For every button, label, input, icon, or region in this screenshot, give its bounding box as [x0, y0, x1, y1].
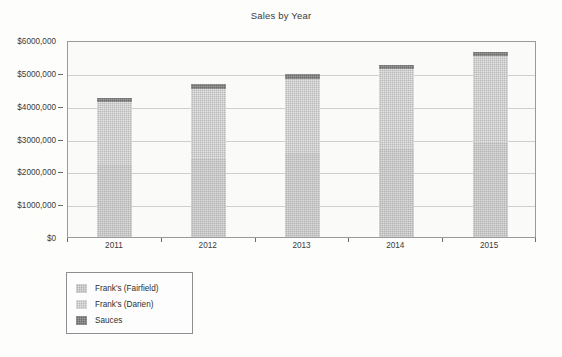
legend-item[interactable]: Sauces	[76, 312, 192, 328]
legend-item[interactable]: Frank's (Darien)	[76, 296, 192, 312]
y-axis-tick-label: $0	[47, 234, 56, 243]
y-axis-tick-label: $3000,000	[17, 135, 56, 144]
bar-segment[interactable]	[191, 158, 226, 237]
bar-stack[interactable]	[379, 65, 414, 237]
legend-item[interactable]: Frank's (Fairfield)	[76, 280, 192, 296]
bar-segment[interactable]	[379, 69, 414, 148]
bar-segment[interactable]	[473, 142, 508, 237]
x-axis-tick-label: 2015	[480, 241, 498, 250]
legend-swatch-sauces	[76, 316, 87, 325]
legend-swatch-fairfield	[76, 284, 87, 293]
bar-segment[interactable]	[97, 102, 132, 164]
bar-segment[interactable]	[473, 56, 508, 142]
y-axis-tick-mark	[58, 140, 63, 141]
y-axis-tick-mark	[58, 172, 63, 173]
y-axis-tick-label: $2000,000	[17, 168, 56, 177]
legend: Frank's (Fairfield)Frank's (Darien)Sauce…	[66, 272, 193, 334]
legend-item-label: Frank's (Darien)	[95, 300, 153, 309]
y-axis: $0$1000,000$2000,000$3000,000$4000,000$5…	[0, 41, 63, 238]
bars-layer	[68, 42, 535, 237]
plot-area	[67, 41, 536, 238]
y-axis-tick-label: $5000,000	[17, 69, 56, 78]
legend-item-label: Frank's (Fairfield)	[95, 284, 158, 293]
y-axis-tick-mark	[58, 205, 63, 206]
y-axis-tick-mark	[58, 107, 63, 108]
y-axis-tick-label: $4000,000	[17, 102, 56, 111]
bar-stack[interactable]	[285, 74, 320, 237]
y-axis-tick-label: $1000,000	[17, 201, 56, 210]
x-axis: 20112012201320142015	[67, 241, 536, 257]
chart-page: Sales by Year $0$1000,000$2000,000$3000,…	[0, 0, 562, 357]
bar-segment[interactable]	[191, 89, 226, 158]
bar-segment[interactable]	[379, 148, 414, 237]
bar-stack[interactable]	[473, 52, 508, 237]
x-axis-tick-label: 2012	[199, 241, 217, 250]
bar-stack[interactable]	[97, 98, 132, 237]
y-axis-tick-label: $6000,000	[17, 37, 56, 46]
bar-stack[interactable]	[191, 84, 226, 237]
bar-segment[interactable]	[285, 79, 320, 153]
bar-segment[interactable]	[285, 153, 320, 237]
legend-item-label: Sauces	[95, 316, 122, 325]
x-axis-tick-label: 2011	[105, 241, 123, 250]
legend-swatch-darien	[76, 300, 87, 309]
x-axis-tick-label: 2014	[386, 241, 404, 250]
bar-segment[interactable]	[97, 165, 132, 237]
x-axis-tick-label: 2013	[292, 241, 310, 250]
y-axis-tick-mark	[58, 74, 63, 75]
page-title: Sales by Year	[0, 10, 562, 21]
